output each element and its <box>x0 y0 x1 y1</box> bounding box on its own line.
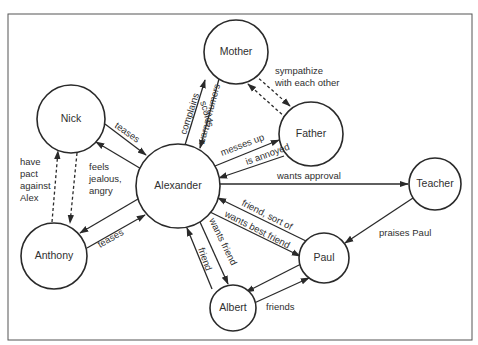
node-label: Nick <box>61 112 82 124</box>
node-label: Albert <box>219 301 247 313</box>
node-label: Father <box>296 127 327 139</box>
node-alexander: Alexander <box>136 144 220 228</box>
edge-alexander-to-anthony <box>80 199 138 233</box>
edge-label-anthony-teases: teases <box>96 226 126 250</box>
node-paul: Paul <box>299 233 349 283</box>
edge-anthony-to-nick <box>52 151 58 222</box>
edge-label-praises-paul: praises Paul <box>379 227 431 238</box>
edge-nick-to-anthony <box>70 153 77 223</box>
edge-paul-to-albert <box>246 264 301 292</box>
node-mother: Mother <box>204 20 268 84</box>
node-father: Father <box>279 102 343 166</box>
node-nick: Nick <box>37 85 105 153</box>
node-label: Paul <box>313 251 334 263</box>
edge-label-sympathize: sympathizewith each other <box>274 65 339 88</box>
edge-label-friends: friends <box>266 301 295 312</box>
node-label: Teacher <box>416 177 454 189</box>
edge-label-friend: friend <box>196 246 214 272</box>
node-teacher: Teacher <box>409 158 461 210</box>
node-label: Mother <box>220 45 253 57</box>
edge-label-complains: complains <box>177 91 201 135</box>
edge-label-feels-jealous: feelsjealous,angry <box>88 161 122 196</box>
node-label: Alexander <box>154 179 202 191</box>
edge-label-warns-humors: warns, humors <box>195 82 222 146</box>
nodes-layer: MotherFatherNickAlexanderAnthonyTeacherP… <box>21 20 461 331</box>
node-anthony: Anthony <box>21 223 87 289</box>
edge-label-have-pact: havepactagainstAlex <box>20 156 51 203</box>
node-albert: Albert <box>210 285 256 331</box>
relationship-diagram: MotherFatherNickAlexanderAnthonyTeacherP… <box>0 0 478 345</box>
edge-father-to-mother <box>248 84 286 118</box>
node-label: Anthony <box>35 249 74 261</box>
edge-label-wants-approval: wants approval <box>276 170 341 181</box>
